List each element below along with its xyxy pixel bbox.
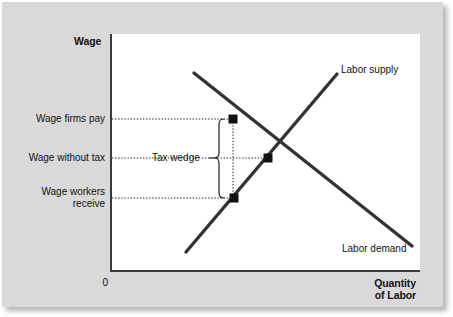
y-label-wage-workers-receive: Wage workers receive (8, 186, 105, 209)
y-label-wage-without-tax: Wage without tax (8, 152, 105, 164)
figure-root: Wage Quantity of Labor 0 Wage firms pay … (0, 0, 453, 317)
x-axis-title: Quantity of Labor (338, 277, 416, 301)
origin-label: 0 (96, 277, 108, 288)
curve-label-labor-demand: Labor demand (342, 243, 407, 254)
y-label-wage-firms-pay: Wage firms pay (8, 113, 105, 125)
curve-label-labor-supply: Labor supply (341, 64, 398, 75)
y-axis-title: Wage (74, 35, 101, 47)
annotation-tax-wedge: Tax wedge (152, 152, 200, 163)
